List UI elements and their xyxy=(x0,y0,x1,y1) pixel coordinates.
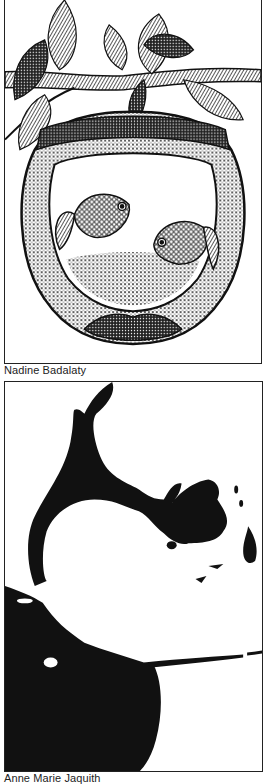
fishbowl-illustration xyxy=(5,0,261,363)
artist-caption: Nadine Badalaty xyxy=(4,364,86,376)
mass-shape xyxy=(5,586,161,771)
artwork-frame-abstract xyxy=(4,381,263,772)
arch-shape xyxy=(28,382,227,586)
artwork-frame-fishbowl xyxy=(4,0,262,364)
abstract-silhouette xyxy=(5,382,262,771)
artist-caption: Anne Marie Jaquith xyxy=(4,772,101,784)
